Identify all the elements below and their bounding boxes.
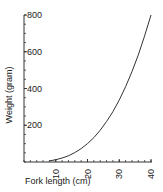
chart: 200400600800 10203040 Weight (gram) Fork… [0, 0, 163, 192]
x-axis-label: Fork length (cm) [25, 176, 91, 186]
x-tick-label: 30 [114, 169, 124, 179]
y-tick-label: 400 [27, 84, 42, 94]
y-axis: 200400600800 [24, 10, 42, 162]
y-axis-label: Weight (gram) [4, 67, 14, 124]
y-tick-label: 800 [27, 10, 42, 20]
data-curve [49, 15, 151, 161]
y-tick-label: 200 [27, 120, 42, 130]
y-tick-label: 600 [27, 47, 42, 57]
x-tick-label: 40 [146, 169, 156, 179]
